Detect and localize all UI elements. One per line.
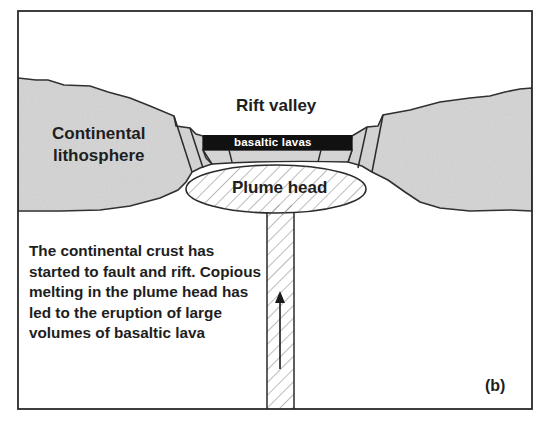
valley-floor bbox=[203, 150, 352, 164]
rift-valley-label: Rift valley bbox=[236, 96, 316, 116]
basaltic-lavas-label: basaltic lavas bbox=[234, 136, 312, 148]
right-lithosphere bbox=[348, 88, 532, 211]
caption-text: The continental crust has started to fau… bbox=[29, 241, 264, 344]
panel-label: (b) bbox=[485, 377, 505, 395]
continental-label-line2: lithosphere bbox=[52, 145, 146, 167]
continental-label-line1: Continental bbox=[52, 123, 146, 145]
continental-lithosphere-label: Continental lithosphere bbox=[52, 123, 146, 167]
rift-diagram bbox=[0, 0, 552, 426]
plume-head-label: Plume head bbox=[232, 178, 327, 198]
